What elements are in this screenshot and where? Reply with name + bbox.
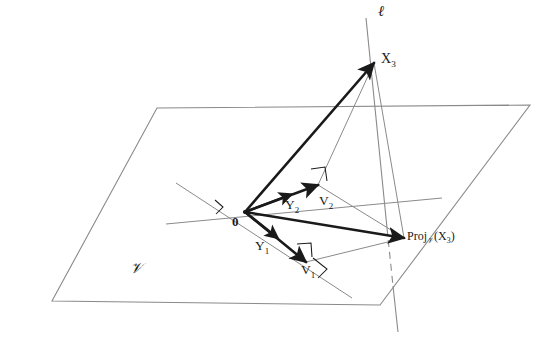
label-v2: V2 [319,194,333,211]
line-x3-to-proj [374,63,404,238]
origin-point [243,210,247,214]
label-proj-open: (X [434,229,447,243]
label-y2: Y2 [285,198,299,215]
line-v1-to-proj [306,238,404,262]
label-v1-subscript: 1 [311,270,315,280]
label-y1-subscript: 1 [265,246,269,256]
label-projection: Proj𝒱(X3) [407,230,455,245]
label-y1: Y1 [255,239,269,256]
label-plane-v: 𝒱 [130,261,142,276]
label-v2-base: V [319,193,329,208]
label-proj-prefix: Proj [407,229,427,243]
plane-axis-lines [166,183,442,298]
projection-diagram: ℓ X3 0 Y1 Y2 V1 V2 𝒱 Proj𝒱(X3) [0,0,542,338]
diagram-canvas [0,0,542,338]
label-v1: V1 [301,263,315,280]
label-proj-close: ) [451,229,455,243]
line-x3-to-v2 [318,63,374,185]
label-x3: X3 [381,52,396,69]
label-v2-subscript: 2 [329,201,333,211]
vector-origin-to-proj [245,212,404,238]
label-x3-base: X [381,51,391,66]
label-v1-base: V [301,262,311,277]
right-angle-v2 [311,167,327,181]
label-origin: 0 [232,215,239,228]
label-y1-base: Y [255,238,265,253]
label-y2-subscript: 2 [295,205,299,215]
label-y2-base: Y [285,197,295,212]
label-x3-subscript: 3 [391,59,396,69]
label-line-l: ℓ [378,4,384,19]
construction-lines [306,63,404,262]
vector-origin-to-x3 [245,63,374,212]
right-angle-origin [215,200,223,214]
label-proj-subscript: 𝒱 [427,236,434,245]
